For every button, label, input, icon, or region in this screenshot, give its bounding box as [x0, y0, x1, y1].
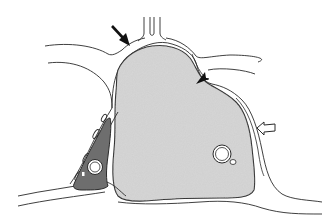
interstitial-cell	[73, 118, 110, 190]
top-vessel	[138, 17, 166, 41]
open-arrow-icon	[257, 122, 275, 135]
solid-arrow-icon	[112, 26, 130, 46]
histology-figure	[0, 0, 328, 224]
